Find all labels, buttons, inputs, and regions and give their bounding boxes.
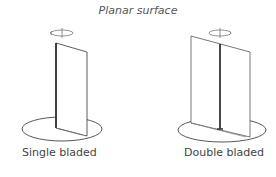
blades [191, 36, 250, 137]
single-blade-figure [22, 28, 102, 141]
rotation-arrow-icon [209, 28, 231, 38]
blade [56, 43, 87, 136]
rotation-arrow-icon [50, 28, 73, 38]
double-bladed-label: Double bladed [184, 146, 264, 159]
double-blade-figure [178, 28, 266, 142]
single-bladed-label: Single bladed [22, 146, 97, 159]
